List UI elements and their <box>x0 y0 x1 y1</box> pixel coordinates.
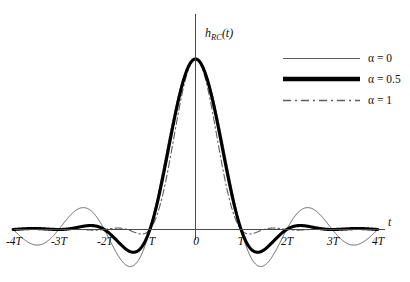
legend: α = 0 α = 0.5 α = 1 <box>283 52 401 106</box>
raised-cosine-impulse-response-chart: hRC(t) t -4T -3T -2T T 0 T 2T 3T 4T α = … <box>0 0 410 282</box>
x-tick-label-minusT: T <box>149 235 157 247</box>
x-tick-label-4T: 4T <box>372 235 386 247</box>
x-tick-label-minus4T: -4T <box>6 235 24 247</box>
legend-item-alpha-1: α = 1 <box>283 94 392 106</box>
x-tick-label-minus3T: -3T <box>51 235 69 247</box>
legend-label-alpha-1: α = 1 <box>368 94 392 106</box>
y-axis-label-subscript: RC <box>210 32 222 42</box>
x-tick-label-zero: 0 <box>193 235 199 247</box>
x-tick-label-2T: 2T <box>281 235 295 247</box>
y-axis-label: hRC(t) <box>205 26 233 42</box>
x-tick-labels: -4T -3T -2T T 0 T 2T 3T 4T <box>6 235 386 247</box>
x-axis-label: t <box>388 216 392 228</box>
x-tick-label-3T: 3T <box>326 235 341 247</box>
legend-label-alpha-0-5: α = 0.5 <box>368 73 401 85</box>
legend-label-alpha-0: α = 0 <box>368 52 392 64</box>
axes <box>14 14 385 240</box>
y-axis-label-argument: (t) <box>222 26 233 40</box>
legend-item-alpha-0-5: α = 0.5 <box>283 73 401 85</box>
legend-item-alpha-0: α = 0 <box>283 52 392 64</box>
x-tick-label-minus2T: -2T <box>97 235 115 247</box>
